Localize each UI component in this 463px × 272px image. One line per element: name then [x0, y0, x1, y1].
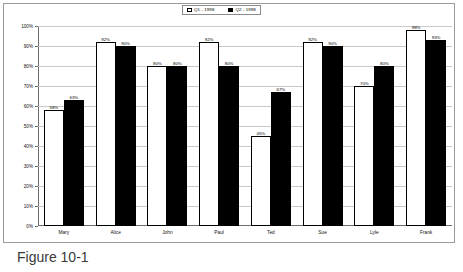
bar-value-label: 93% — [432, 35, 441, 40]
chart-legend: Q1 - 1998 Q2 - 1998 — [182, 5, 261, 15]
bar-value-label: 80% — [153, 61, 162, 66]
bar-q1[interactable]: 45% — [251, 136, 271, 226]
bar-group: 98%93%Frank — [400, 26, 452, 226]
bar-q2[interactable]: 80% — [219, 66, 239, 226]
x-axis-category-label: Lyle — [370, 230, 379, 236]
bar-value-label: 80% — [173, 61, 182, 66]
bar-value-label: 63% — [69, 95, 78, 100]
bar-group: 70%80%Lyle — [349, 26, 401, 226]
bar-value-label: 98% — [412, 25, 421, 30]
y-axis-label: 40% — [24, 144, 33, 149]
bar-value-label: 45% — [256, 131, 265, 136]
x-axis-category-label: Ted — [267, 230, 275, 236]
bar-value-label: 92% — [308, 37, 317, 42]
x-axis-category-label: John — [162, 230, 172, 236]
bar-value-label: 92% — [205, 37, 214, 42]
bar-group: 92%90%Sue — [297, 26, 349, 226]
bar-q2[interactable]: 67% — [271, 92, 291, 226]
bar-group: 92%80%Paul — [193, 26, 245, 226]
plot-area: 100%90%80%70%60%50%40%30%20%10%0% 58%63%… — [38, 26, 452, 226]
legend-swatch-q1-icon — [187, 8, 192, 12]
x-axis-category-label: Alice — [110, 230, 120, 236]
x-axis-category-label: Paul — [214, 230, 224, 236]
bar-value-label: 90% — [328, 41, 337, 46]
bar-q2[interactable]: 90% — [116, 46, 136, 226]
y-axis-label: 70% — [24, 84, 33, 89]
bar-groups: 58%63%Mary92%90%Alice80%80%John92%80%Pau… — [38, 26, 452, 226]
y-axis-label: 60% — [24, 104, 33, 109]
y-axis-label: 100% — [21, 24, 33, 29]
bar-q2[interactable]: 93% — [426, 40, 446, 226]
y-axis-label: 30% — [24, 164, 33, 169]
chart-frame: Q1 - 1998 Q2 - 1998 100%90%80%70%60%50%4… — [3, 3, 455, 243]
bar-value-label: 58% — [49, 105, 58, 110]
bar-q2[interactable]: 80% — [374, 66, 394, 226]
bar-q2[interactable]: 63% — [64, 100, 84, 226]
legend-swatch-q2-icon — [228, 8, 233, 12]
bar-value-label: 67% — [276, 87, 285, 92]
bar-value-label: 90% — [121, 41, 130, 46]
bar-value-label: 70% — [360, 81, 369, 86]
bar-value-label: 92% — [101, 37, 110, 42]
bar-group: 58%63%Mary — [38, 26, 90, 226]
bar-q1[interactable]: 98% — [406, 30, 426, 226]
bar-q1[interactable]: 70% — [354, 86, 374, 226]
legend-label-q2: Q2 - 1998 — [235, 7, 255, 13]
x-axis-category-label: Frank — [420, 230, 432, 236]
y-axis-label: 80% — [24, 64, 33, 69]
y-axis-label: 0% — [26, 224, 33, 229]
bar-q1[interactable]: 92% — [303, 42, 323, 226]
y-axis-tick — [35, 226, 38, 227]
bar-group: 80%80%John — [142, 26, 194, 226]
legend-item-q1: Q1 - 1998 — [187, 7, 214, 13]
x-axis-category-label: Sue — [318, 230, 327, 236]
y-axis-label: 50% — [24, 124, 33, 129]
x-axis-category-label: Mary — [59, 230, 70, 236]
bar-q1[interactable]: 92% — [199, 42, 219, 226]
y-axis-label: 90% — [24, 44, 33, 49]
figure-caption: Figure 10-1 — [17, 248, 89, 266]
y-axis-label: 20% — [24, 184, 33, 189]
bar-q1[interactable]: 92% — [96, 42, 116, 226]
y-axis-label: 10% — [24, 204, 33, 209]
bar-group: 92%90%Alice — [90, 26, 142, 226]
bar-q1[interactable]: 80% — [147, 66, 167, 226]
bar-value-label: 80% — [225, 61, 234, 66]
legend-label-q1: Q1 - 1998 — [194, 7, 214, 13]
bar-q2[interactable]: 80% — [167, 66, 187, 226]
bar-q2[interactable]: 90% — [323, 46, 343, 226]
legend-item-q2: Q2 - 1998 — [228, 7, 255, 13]
bar-value-label: 80% — [380, 61, 389, 66]
figure-container: Q1 - 1998 Q2 - 1998 100%90%80%70%60%50%4… — [0, 0, 463, 272]
bar-q1[interactable]: 58% — [44, 110, 64, 226]
bar-group: 45%67%Ted — [245, 26, 297, 226]
